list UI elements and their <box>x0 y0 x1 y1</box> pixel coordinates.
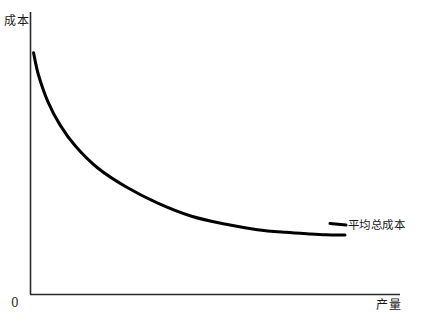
curve-series-label: 平均总成本 <box>348 218 405 232</box>
curve-label-leader <box>330 224 346 226</box>
x-axis-label: 产量 <box>376 298 401 312</box>
y-axis-label: 成本 <box>4 14 29 28</box>
origin-label: 0 <box>11 297 19 310</box>
average-total-cost-curve <box>34 53 345 235</box>
chart-canvas <box>0 0 426 325</box>
cost-curve-chart: 成本 产量 0 平均总成本 <box>0 0 426 325</box>
